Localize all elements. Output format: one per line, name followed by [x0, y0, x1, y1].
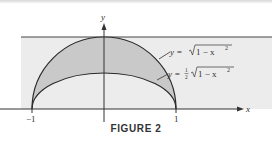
curve1-label-exponent: 2 — [225, 45, 228, 51]
curve1-label-prefix: y = — [169, 47, 182, 57]
curve1-label-radicand: 1 − x — [196, 47, 215, 57]
y-axis-label: y — [100, 12, 105, 22]
curve2-label-frac-num: 1 — [185, 67, 188, 73]
curve2-label-exponent: 2 — [227, 67, 230, 73]
curve2-label-prefix: y = — [167, 69, 180, 79]
curve2-label-radicand: 1 − x — [198, 69, 217, 79]
figure-caption: FIGURE 2 — [0, 123, 272, 134]
y-axis-arrow-icon — [102, 23, 107, 30]
curve2-label-frac-den: 2 — [185, 74, 188, 80]
x-axis-label: x — [245, 104, 250, 114]
